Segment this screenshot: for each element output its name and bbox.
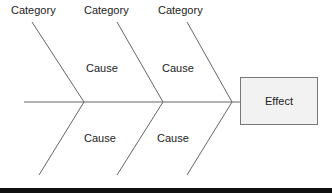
bottom-bone-3 xyxy=(187,102,232,175)
cause-label-bottom-1: Cause xyxy=(84,132,116,144)
cause-label-top-2: Cause xyxy=(162,62,194,74)
bottom-border-bar xyxy=(0,188,332,193)
top-bone-2 xyxy=(117,22,163,102)
effect-label: Effect xyxy=(265,95,293,107)
cause-label-bottom-2: Cause xyxy=(157,132,189,144)
effect-box: Effect xyxy=(240,77,318,125)
category-label-3: Category xyxy=(158,4,203,16)
category-label-1: Category xyxy=(11,4,56,16)
cause-label-top-1: Cause xyxy=(86,62,118,74)
top-bone-1 xyxy=(32,22,84,102)
category-label-2: Category xyxy=(84,4,129,16)
bottom-bone-1 xyxy=(39,102,84,175)
